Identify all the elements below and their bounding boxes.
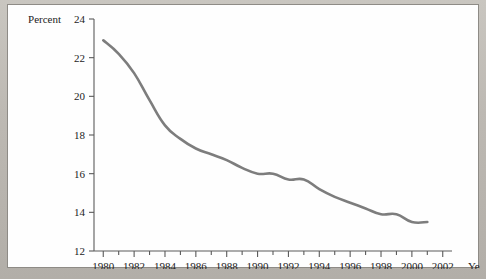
x-axis-tick-label: 2002 [432, 260, 454, 269]
x-axis-tick-label: 1986 [185, 260, 208, 269]
x-axis-tick-label: 1994 [308, 260, 331, 269]
y-axis-tick-label: 24 [74, 13, 86, 25]
x-axis-title: Year [468, 260, 480, 269]
figure-root: 12141618202224Percent1980198219841986198… [0, 0, 486, 279]
x-axis-tick-label: 1984 [154, 260, 177, 269]
chart-panel: 12141618202224Percent1980198219841986198… [7, 4, 479, 268]
line-chart: 12141618202224Percent1980198219841986198… [8, 5, 480, 269]
y-axis-tick-label: 14 [74, 206, 86, 218]
x-axis-tick-label: 1988 [216, 260, 239, 269]
x-axis-tick-label: 2000 [401, 260, 424, 269]
x-axis-tick-label: 1980 [92, 260, 115, 269]
y-axis-tick-label: 12 [74, 245, 85, 257]
x-axis-tick-label: 1990 [247, 260, 270, 269]
x-axis-tick-label: 1998 [370, 260, 393, 269]
data-line-percent [103, 40, 427, 222]
y-axis-tick-label: 22 [74, 52, 85, 64]
x-axis-tick-label: 1982 [123, 260, 145, 269]
y-axis-tick-label: 20 [74, 90, 86, 102]
y-axis-tick-label: 16 [74, 168, 86, 180]
x-axis-tick-label: 1996 [339, 260, 362, 269]
y-axis-tick-label: 18 [74, 129, 86, 141]
plot-area: 12141618202224Percent1980198219841986198… [8, 5, 480, 269]
y-axis-title: Percent [28, 13, 61, 25]
x-axis-tick-label: 1992 [277, 260, 299, 269]
